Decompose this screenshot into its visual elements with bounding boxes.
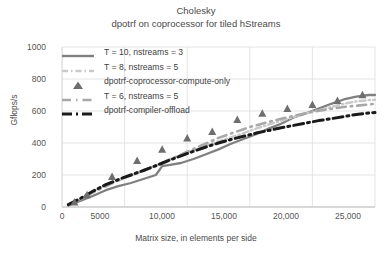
legend-item-1[interactable]: T = 8, nstreams = 5 bbox=[60, 60, 230, 75]
legend-label-1: T = 8, nstreams = 5 bbox=[100, 62, 178, 72]
legend-key-dashed-line-light bbox=[60, 62, 100, 72]
legend-key-triangle-marker bbox=[60, 76, 100, 86]
legend-item-4[interactable]: dpotrf-compiler-offload bbox=[60, 103, 230, 118]
plot-area bbox=[0, 0, 392, 255]
legend-key-solid-line bbox=[60, 47, 100, 57]
legend-key-dashed-line-mid bbox=[60, 91, 100, 101]
legend-label-4: dpotrf-compiler-offload bbox=[100, 105, 190, 115]
chart-container: Cholesky dpotrf on coprocessor for tiled… bbox=[0, 0, 392, 255]
legend-item-3[interactable]: T = 6, nstreams = 5 bbox=[60, 89, 230, 104]
legend: T = 10, nstreams = 3 T = 8, nstreams = 5… bbox=[60, 45, 230, 118]
legend-label-0: T = 10, nstreams = 3 bbox=[100, 47, 183, 57]
legend-key-dashed-line-black bbox=[60, 105, 100, 115]
legend-label-2: dpotrf-coprocessor-compute-only bbox=[100, 76, 230, 86]
legend-item-2[interactable]: dpotrf-coprocessor-compute-only bbox=[60, 74, 230, 89]
legend-label-3: T = 6, nstreams = 5 bbox=[100, 91, 178, 101]
legend-item-0[interactable]: T = 10, nstreams = 3 bbox=[60, 45, 230, 60]
